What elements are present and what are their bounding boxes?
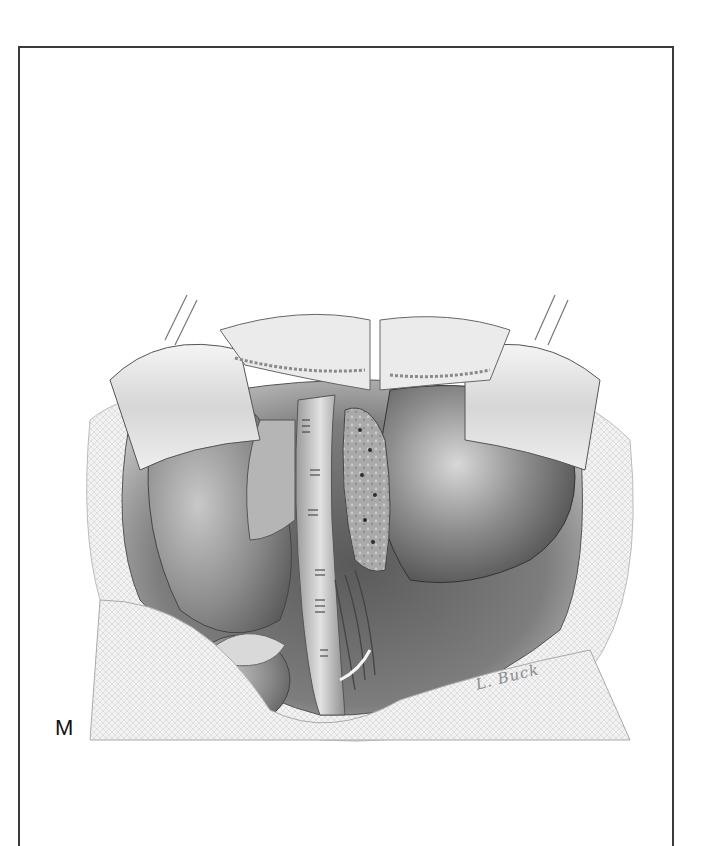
panel-label: M — [55, 717, 73, 739]
surgical-illustration — [70, 270, 650, 750]
